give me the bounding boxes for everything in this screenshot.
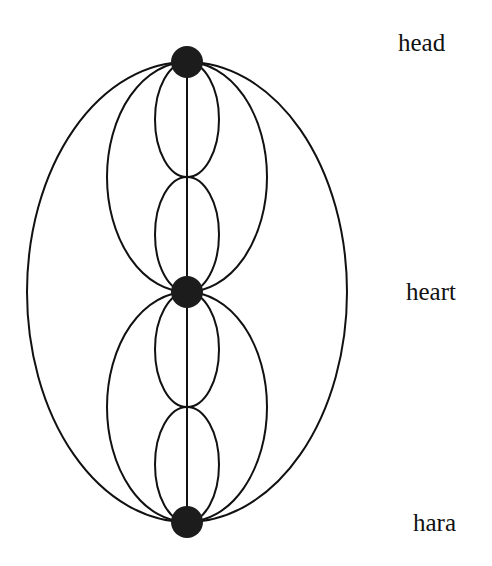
node-heart bbox=[171, 276, 203, 308]
label-hara: hara bbox=[413, 510, 456, 535]
node-hara bbox=[171, 506, 203, 538]
label-heart: heart bbox=[406, 279, 456, 304]
label-head: head bbox=[398, 30, 445, 55]
node-head bbox=[171, 46, 203, 78]
